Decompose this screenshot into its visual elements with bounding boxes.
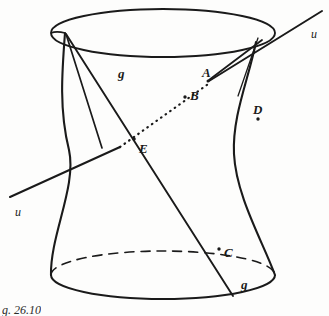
line-u-left-stroke [10,147,120,197]
right-silhouette-curve [234,42,275,275]
right-fan-lines [209,38,262,96]
line-u-right-stroke [209,11,322,81]
top-ellipse-outline [51,9,275,57]
figure-canvas [0,0,329,316]
left-silhouette-curve [51,33,71,275]
right-fan-line-b [238,38,258,96]
label-point-D: D [253,103,262,116]
label-point-B: B [190,89,199,102]
top-left-join [51,32,65,33]
right-fan-line-a [209,40,262,80]
left-silhouette [51,33,71,275]
generator-secondary-stroke [66,34,102,148]
top-ellipse [51,9,275,57]
point-dot-E [132,137,136,141]
label-generator-upper-g: g [118,67,125,80]
point-dot-C [217,247,220,250]
top-left-join-stroke [51,32,65,33]
label-point-A: A [202,66,211,79]
generator-secondary [66,34,102,148]
label-generator-lower-g: g [241,278,248,291]
label-point-C: C [224,246,233,259]
label-point-E: E [139,142,148,155]
hyperboloid-figure: A B C D E g g u u g. 26.10 [0,0,329,316]
line-u-left-segment [10,147,120,197]
label-line-u-left: u [15,206,21,218]
right-silhouette [234,42,275,275]
point-dot-D [256,117,259,120]
line-u-right-segment [209,11,322,81]
bottom-ellipse-back-dashed [51,251,275,275]
label-line-u-right: u [311,28,317,40]
point-dot-B [183,95,186,98]
figure-caption: g. 26.10 [2,303,41,316]
